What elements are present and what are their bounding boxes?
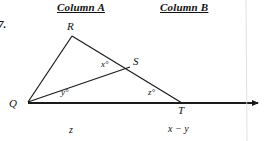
angle-label-x: x°: [101, 59, 109, 69]
segment-qs: [28, 67, 130, 102]
angle-label-z: z°: [148, 87, 155, 97]
vertex-label-t: T: [178, 104, 184, 116]
worksheet-page: 7. Column A Column B R S Q T x° y° z° z …: [0, 0, 269, 141]
geometry-diagram: [0, 0, 269, 141]
segment-rt: [72, 36, 182, 103]
column-a-value: z: [69, 124, 73, 135]
vertex-label-r: R: [67, 20, 74, 32]
page-margin-line: [246, 0, 247, 141]
vertex-label-q: Q: [9, 97, 17, 109]
angle-label-y: y°: [61, 87, 69, 97]
vertex-label-s: S: [133, 55, 139, 67]
column-b-value: x − y: [168, 123, 189, 134]
